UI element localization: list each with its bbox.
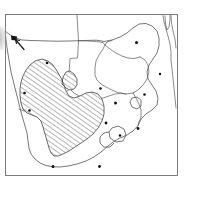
locality-dot-10 — [23, 92, 26, 95]
distribution-map-figure — [0, 0, 197, 199]
locality-dot-11 — [46, 62, 49, 65]
locality-dot-3 — [114, 102, 117, 105]
locality-dot-4 — [105, 122, 108, 125]
map-canvas — [0, 0, 197, 199]
locality-dot-12 — [143, 93, 146, 96]
locality-dot-7 — [98, 165, 101, 168]
locality-dot-5 — [137, 127, 140, 130]
locality-dot-13 — [159, 73, 161, 75]
locality-dot-2 — [99, 87, 102, 90]
locality-dot-1 — [135, 41, 138, 44]
locality-dot-8 — [52, 165, 55, 168]
locality-dot-6 — [119, 134, 122, 137]
locality-dot-9 — [28, 109, 31, 112]
